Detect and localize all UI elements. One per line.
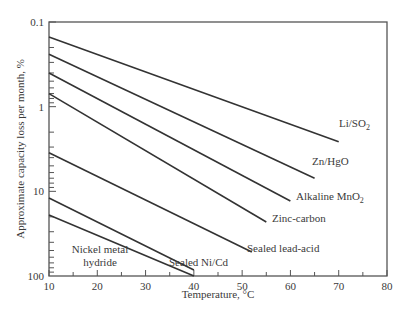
label-nimh-line2: hydride (83, 256, 117, 268)
y-tick-label: 0.1 (30, 16, 44, 28)
x-axis-ticks (49, 270, 387, 276)
label-sealed-nicd: Sealed Ni/Cd (169, 256, 228, 268)
y-axis-ticks (49, 22, 56, 272)
x-tick-label: 80 (382, 280, 394, 292)
series-line (49, 37, 339, 142)
x-tick-label: 70 (333, 280, 345, 292)
label-zinc-carbon: Zinc-carbon (272, 212, 326, 224)
x-axis-title: Temperature, °C (182, 288, 255, 300)
label-alkaline-mno2: Alkaline MnO2 (296, 190, 364, 205)
label-zn-hgo: Zn/HgO (312, 155, 349, 167)
capacity-loss-chart: 0.1110100 1020304050607080 Li/SO2 Zn/HgO… (0, 0, 411, 318)
series-line (49, 73, 290, 201)
y-tick-label: 10 (33, 185, 45, 197)
series-line (49, 54, 315, 178)
y-tick-label: 1 (39, 101, 45, 113)
y-axis-title: Approximate capacity loss per month, % (14, 59, 26, 239)
x-tick-label: 10 (44, 280, 56, 292)
series-line (49, 94, 266, 222)
label-sealed-lead-acid: Sealed lead-acid (247, 242, 320, 254)
x-tick-label: 30 (140, 280, 152, 292)
label-li-so2: Li/SO2 (339, 117, 370, 132)
y-tick-labels: 0.1110100 (28, 16, 45, 282)
plot-frame (49, 22, 387, 276)
label-nimh-line1: Nickel metal (72, 243, 129, 255)
series-lines (49, 37, 339, 276)
x-tick-label: 20 (92, 280, 104, 292)
series-line (49, 153, 252, 252)
y-tick-label: 100 (28, 270, 45, 282)
x-tick-label: 60 (285, 280, 297, 292)
